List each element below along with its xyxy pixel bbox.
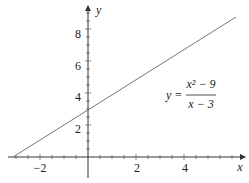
equation-lhs: y = xyxy=(165,88,182,102)
y-tick-label: 6 xyxy=(75,59,81,73)
x-tick-label: −2 xyxy=(34,161,47,175)
x-tick-label: 2 xyxy=(134,161,140,175)
y-axis-label: y xyxy=(95,3,102,17)
y-tick-label: 4 xyxy=(75,90,81,104)
equation-numerator: x² − 9 xyxy=(185,77,215,91)
x-tick-label: 4 xyxy=(182,161,188,175)
function-graph: −2 2 4 2 4 6 8 x y y = x² − 9 x − 3 xyxy=(0,0,249,183)
x-axis-label: x xyxy=(236,160,243,174)
equation-annotation: y = x² − 9 x − 3 xyxy=(165,77,216,111)
equation-denominator: x − 3 xyxy=(187,97,213,111)
y-tick-label: 8 xyxy=(75,27,81,41)
y-tick-label: 2 xyxy=(75,122,81,136)
